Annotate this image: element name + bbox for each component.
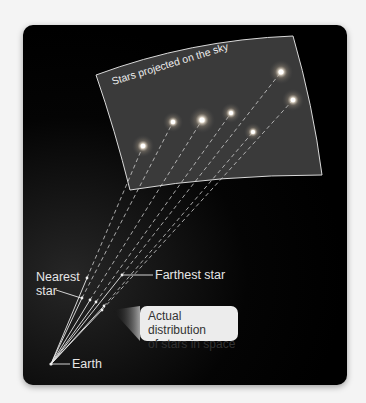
earth-point	[49, 362, 52, 365]
actual-distribution-callout: Actual distribution of stars in space	[140, 306, 238, 341]
star-icon	[269, 60, 293, 84]
star-icon	[282, 89, 304, 111]
nearest-star-label: Nearest star	[36, 270, 80, 298]
star-icon	[189, 107, 215, 133]
star-icon	[132, 135, 154, 157]
callout-pointer	[112, 306, 140, 341]
farthest-star-label: Farthest star	[155, 268, 225, 282]
star-icon	[221, 103, 241, 123]
earth-label: Earth	[72, 357, 102, 371]
star-icon	[163, 112, 183, 132]
star-icon	[244, 123, 262, 141]
